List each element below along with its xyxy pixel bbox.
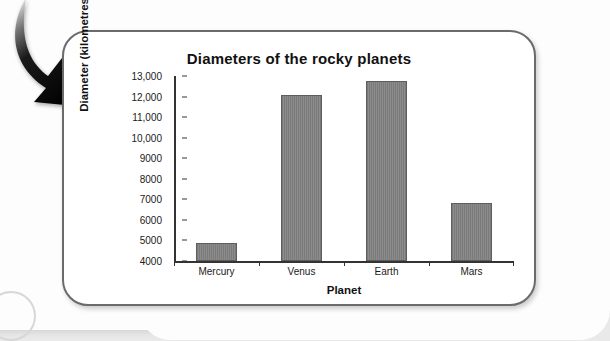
y-axis-tick-label: 13,000 <box>131 71 162 82</box>
figure-card: Diameters of the rocky planets Diameter … <box>62 30 536 306</box>
y-axis-tick-label: 5000 <box>140 235 162 246</box>
bar-slot <box>344 76 429 261</box>
y-axis-tick-label: 10,000 <box>131 132 162 143</box>
bar-slot <box>429 76 514 261</box>
y-axis-tick-label: 9000 <box>140 153 162 164</box>
x-axis-title: Planet <box>174 284 514 296</box>
x-axis-tick-labels: MercuryVenusEarthMars <box>174 266 514 277</box>
y-axis-tick-label: 7000 <box>140 194 162 205</box>
chart-plot-area: Diameter (kilometres) 13,00012,00011,000… <box>104 76 514 276</box>
bar-mercury <box>196 243 237 261</box>
bar-earth <box>366 81 407 261</box>
x-axis-tick-label: Earth <box>344 266 429 277</box>
y-axis-tick-labels: 13,00012,00011,00010,0009000800070006000… <box>118 76 168 262</box>
bar-mars <box>451 203 492 261</box>
bar-slot <box>174 76 259 261</box>
y-axis-tick-label: 4000 <box>140 256 162 267</box>
bar-venus <box>281 95 322 262</box>
y-axis-tick-label: 6000 <box>140 214 162 225</box>
bar-slot <box>259 76 344 261</box>
x-axis-tick-label: Mercury <box>174 266 259 277</box>
x-axis-tick-label: Venus <box>259 266 344 277</box>
y-axis-tick-label: 12,000 <box>131 91 162 102</box>
y-axis-tick-label: 8000 <box>140 173 162 184</box>
y-axis-title: Diameter (kilometres) <box>78 0 90 128</box>
y-axis-tick-label: 11,000 <box>132 112 162 123</box>
bar-series <box>174 76 514 261</box>
x-axis-tick-label: Mars <box>429 266 514 277</box>
chart-title: Diameters of the rocky planets <box>64 50 534 67</box>
